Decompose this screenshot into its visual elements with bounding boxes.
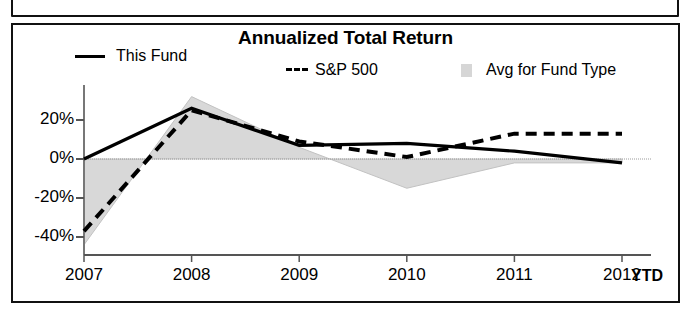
plot-area: 20%0%-20%-40% 200720082009201020112012 Y… bbox=[13, 25, 682, 305]
annualized-total-return-panel: Annualized Total Return This Fund S&P 50… bbox=[11, 23, 680, 303]
previous-panel-bottom-edge bbox=[11, 0, 679, 17]
x-axis-tick-label: 2008 bbox=[157, 265, 227, 285]
y-axis-tick-label: 20% bbox=[12, 109, 74, 129]
series-area-avg-for-fund-type bbox=[84, 97, 622, 245]
y-axis-tick-label: -40% bbox=[12, 226, 74, 246]
x-axis-tick-label: 2011 bbox=[479, 265, 549, 285]
x-axis-ytd-note: YTD bbox=[631, 267, 663, 285]
x-axis-tick-label: 2010 bbox=[372, 265, 442, 285]
y-axis-tick-label: -20% bbox=[12, 187, 74, 207]
x-axis-tick-label: 2009 bbox=[264, 265, 334, 285]
series-line-sp500 bbox=[84, 110, 622, 231]
chart-axes bbox=[76, 85, 651, 262]
chart-plot-svg bbox=[13, 25, 682, 305]
x-axis-tick-label: 2007 bbox=[49, 265, 119, 285]
y-axis-tick-label: 0% bbox=[12, 148, 74, 168]
